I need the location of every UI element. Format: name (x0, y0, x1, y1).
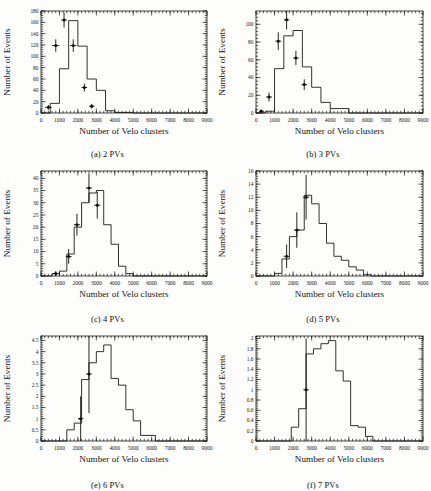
svg-text:1.5: 1.5 (32, 404, 39, 410)
histogram-outline (52, 191, 141, 276)
svg-text:1.6: 1.6 (247, 356, 254, 362)
svg-text:4000: 4000 (109, 445, 120, 451)
svg-text:2000: 2000 (72, 280, 83, 286)
data-point (301, 79, 307, 90)
x-axis-title: Number of Velo clusters (295, 126, 385, 136)
svg-text:8000: 8000 (183, 280, 194, 286)
svg-text:5000: 5000 (343, 117, 354, 123)
data-point (74, 214, 80, 236)
svg-text:7000: 7000 (380, 280, 391, 286)
svg-text:40: 40 (248, 74, 254, 80)
svg-text:9000: 9000 (418, 280, 429, 286)
svg-text:0: 0 (40, 117, 43, 123)
svg-text:0: 0 (251, 438, 254, 444)
data-point (86, 336, 92, 413)
svg-text:0: 0 (40, 445, 43, 451)
panel-b: 0100020003000400050006000700080009000020… (215, 0, 431, 160)
panel-d-caption: (d) 5 PVs (215, 314, 431, 324)
svg-text:2: 2 (251, 335, 254, 341)
x-axis-title: Number of Velo clusters (295, 289, 385, 299)
svg-text:9000: 9000 (418, 445, 429, 451)
svg-text:2: 2 (36, 393, 39, 399)
svg-text:35: 35 (33, 187, 39, 193)
svg-text:16: 16 (248, 168, 254, 174)
y-axis-title: Number of Events (217, 189, 227, 257)
histogram-outline (291, 341, 380, 441)
svg-text:140: 140 (30, 31, 38, 37)
svg-text:5000: 5000 (128, 280, 139, 286)
panel-e: 010002000300040005000600070008000900000.… (0, 325, 215, 491)
svg-text:4000: 4000 (325, 280, 336, 286)
data-point (266, 93, 272, 102)
svg-text:5000: 5000 (343, 280, 354, 286)
svg-text:60: 60 (248, 57, 254, 63)
panel-a: 0100020003000400050006000700080009000020… (0, 0, 215, 160)
svg-text:0: 0 (36, 110, 39, 116)
panel-f: 010002000300040005000600070008000900000.… (215, 325, 431, 491)
histogram-outline (41, 21, 152, 113)
data-point (45, 105, 52, 110)
svg-text:8000: 8000 (399, 117, 410, 123)
svg-text:7000: 7000 (165, 117, 176, 123)
svg-text:2000: 2000 (72, 117, 83, 123)
svg-text:1000: 1000 (54, 445, 65, 451)
svg-text:180: 180 (30, 8, 38, 14)
svg-text:25: 25 (33, 212, 39, 218)
svg-text:14: 14 (248, 181, 254, 187)
svg-text:5: 5 (36, 261, 39, 267)
svg-text:0: 0 (255, 280, 258, 286)
svg-text:20: 20 (33, 99, 39, 105)
svg-text:80: 80 (248, 39, 254, 45)
svg-text:7000: 7000 (380, 445, 391, 451)
plot-d: 0100020003000400050006000700080009000024… (215, 160, 431, 310)
data-point (284, 245, 290, 269)
data-point (78, 396, 84, 441)
y-axis-title: Number of Events (2, 189, 12, 257)
svg-text:6000: 6000 (362, 445, 373, 451)
x-axis-title: Number of Velo clusters (79, 289, 169, 299)
y-axis-title: Number of Events (2, 28, 12, 96)
svg-text:5000: 5000 (128, 117, 139, 123)
histogram-outline (67, 345, 156, 441)
svg-text:3000: 3000 (91, 117, 102, 123)
svg-text:20: 20 (248, 92, 254, 98)
svg-text:4000: 4000 (109, 280, 120, 286)
svg-text:2000: 2000 (72, 445, 83, 451)
svg-text:3000: 3000 (306, 445, 317, 451)
svg-text:3000: 3000 (306, 280, 317, 286)
plot-f: 010002000300040005000600070008000900000.… (215, 325, 431, 475)
data-point (294, 212, 300, 247)
y-axis-title: Number of Events (2, 354, 12, 422)
svg-text:1000: 1000 (269, 445, 280, 451)
data-point (94, 192, 100, 219)
data-point (52, 39, 59, 51)
svg-text:10: 10 (248, 207, 254, 213)
panel-e-caption: (e) 6 PVs (0, 480, 215, 490)
svg-text:160: 160 (30, 19, 38, 25)
svg-text:4.5: 4.5 (32, 337, 39, 343)
svg-text:0: 0 (36, 273, 39, 279)
svg-text:6000: 6000 (146, 280, 157, 286)
svg-text:9000: 9000 (202, 280, 213, 286)
x-axis-title: Number of Velo clusters (79, 126, 169, 136)
svg-text:1.8: 1.8 (247, 346, 254, 352)
svg-text:6000: 6000 (146, 117, 157, 123)
svg-text:10: 10 (33, 248, 39, 254)
svg-text:6000: 6000 (362, 280, 373, 286)
svg-text:8000: 8000 (399, 280, 410, 286)
svg-text:3: 3 (36, 371, 39, 377)
svg-text:3000: 3000 (306, 117, 317, 123)
svg-text:2.5: 2.5 (32, 382, 39, 388)
svg-text:1000: 1000 (269, 280, 280, 286)
svg-text:2000: 2000 (288, 445, 299, 451)
data-point (275, 32, 281, 50)
data-point (61, 13, 67, 28)
panel-f-caption: (f) 7 PVs (215, 480, 431, 490)
svg-text:1.4: 1.4 (247, 366, 254, 372)
plot-e: 010002000300040005000600070008000900000.… (0, 325, 215, 475)
svg-text:1.2: 1.2 (247, 376, 254, 382)
svg-text:9000: 9000 (202, 117, 213, 123)
svg-text:6000: 6000 (362, 117, 373, 123)
svg-text:4000: 4000 (325, 445, 336, 451)
svg-text:100: 100 (30, 53, 38, 59)
